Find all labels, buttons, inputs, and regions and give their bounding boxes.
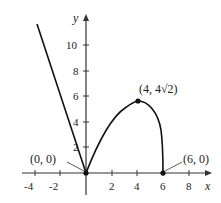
point-six [160, 170, 165, 175]
label-origin: (0, 0) [30, 152, 56, 166]
x-tick: 2 [109, 180, 115, 192]
x-axis-label: x [204, 179, 211, 193]
leader-origin [67, 162, 84, 171]
x-tick: 8 [186, 180, 192, 192]
curve-left-line [37, 24, 86, 173]
leader-six [165, 162, 182, 171]
y-tick: 6 [73, 90, 79, 102]
label-six: (6, 0) [183, 152, 209, 166]
y-axis-arrow-icon [83, 14, 89, 21]
label-max: (4, 4√2) [139, 82, 178, 96]
x-tick: -4 [24, 180, 34, 192]
x-tick: -2 [49, 180, 58, 192]
x-tick: 4 [134, 180, 140, 192]
y-tick: 4 [73, 116, 79, 128]
y-tick: 10 [66, 39, 78, 51]
curve-arc [86, 101, 163, 173]
x-tick: 6 [160, 180, 166, 192]
point-max [135, 98, 140, 103]
x-axis-arrow-icon [205, 170, 212, 176]
y-tick: 8 [73, 65, 79, 77]
y-axis-label: y [72, 11, 79, 25]
point-origin [83, 170, 88, 175]
graph: x y -4 -2 2 4 6 8 2 4 6 8 10 (0, 0) (4, … [0, 0, 221, 203]
